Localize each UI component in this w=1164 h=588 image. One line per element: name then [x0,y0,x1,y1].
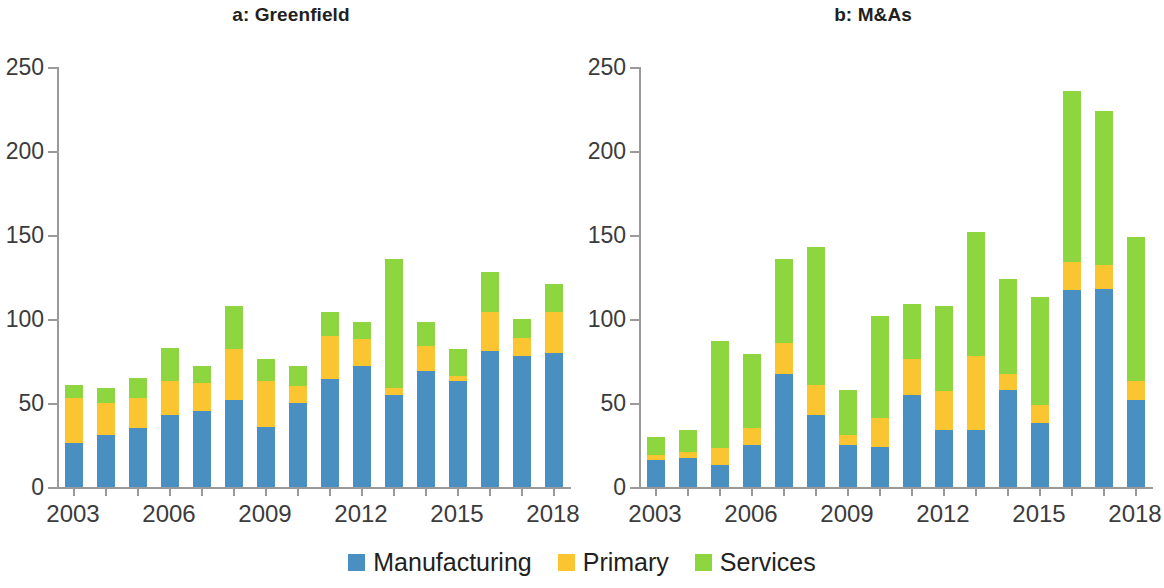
bar-2003[interactable] [65,385,83,487]
bar-2014[interactable] [417,322,435,487]
bar-segment-primary-2013[interactable] [385,388,403,395]
bar-segment-manufacturing-2005[interactable] [711,465,729,487]
bar-2006[interactable] [161,348,179,487]
bar-segment-manufacturing-2003[interactable] [65,443,83,487]
bar-2004[interactable] [679,430,697,487]
bar-segment-services-2004[interactable] [97,388,115,403]
bar-segment-services-2016[interactable] [481,272,499,312]
bar-segment-services-2012[interactable] [935,306,953,392]
bar-segment-manufacturing-2004[interactable] [679,458,697,487]
bar-segment-primary-2016[interactable] [481,312,499,351]
bar-segment-services-2014[interactable] [999,279,1017,375]
bar-segment-manufacturing-2014[interactable] [417,371,435,487]
bar-segment-manufacturing-2014[interactable] [999,390,1017,487]
bar-segment-manufacturing-2009[interactable] [257,427,275,487]
bar-segment-services-2011[interactable] [321,312,339,336]
bar-segment-manufacturing-2011[interactable] [321,379,339,487]
bar-segment-primary-2004[interactable] [679,452,697,459]
legend-item-services[interactable]: Services [695,548,816,577]
bar-segment-primary-2005[interactable] [711,448,729,465]
bar-segment-services-2009[interactable] [257,359,275,381]
bar-segment-services-2010[interactable] [871,316,889,418]
bar-segment-services-2008[interactable] [807,247,825,385]
bar-segment-primary-2018[interactable] [545,312,563,352]
bar-segment-services-2008[interactable] [225,306,243,350]
bar-segment-primary-2003[interactable] [65,398,83,443]
bar-segment-primary-2017[interactable] [1095,265,1113,289]
bar-segment-services-2017[interactable] [513,319,531,337]
bar-segment-manufacturing-2011[interactable] [903,395,921,487]
bar-2011[interactable] [903,304,921,487]
bar-segment-services-2003[interactable] [65,385,83,398]
bar-segment-primary-2006[interactable] [743,428,761,445]
bar-segment-services-2007[interactable] [775,259,793,343]
bar-2012[interactable] [353,322,371,487]
bar-segment-primary-2007[interactable] [775,343,793,375]
bar-segment-services-2013[interactable] [967,232,985,356]
bar-2009[interactable] [839,390,857,487]
bar-segment-manufacturing-2018[interactable] [1127,400,1145,487]
bar-segment-manufacturing-2004[interactable] [97,435,115,487]
bar-segment-primary-2014[interactable] [999,374,1017,389]
bar-segment-manufacturing-2010[interactable] [871,447,889,487]
bar-segment-services-2016[interactable] [1063,91,1081,262]
bar-2018[interactable] [545,284,563,487]
bar-segment-services-2006[interactable] [743,354,761,428]
bar-segment-services-2007[interactable] [193,366,211,383]
bar-2013[interactable] [385,259,403,487]
bar-segment-services-2012[interactable] [353,322,371,339]
bar-segment-manufacturing-2013[interactable] [967,430,985,487]
bar-segment-manufacturing-2017[interactable] [1095,289,1113,487]
bar-segment-services-2018[interactable] [545,284,563,313]
bar-2015[interactable] [449,349,467,487]
bar-segment-manufacturing-2013[interactable] [385,395,403,487]
bar-segment-manufacturing-2010[interactable] [289,403,307,487]
bar-segment-services-2013[interactable] [385,259,403,388]
bar-segment-services-2005[interactable] [711,341,729,449]
bar-segment-manufacturing-2005[interactable] [129,428,147,487]
bar-2003[interactable] [647,437,665,487]
bar-2015[interactable] [1031,297,1049,487]
bar-segment-primary-2010[interactable] [871,418,889,447]
bar-segment-primary-2011[interactable] [321,336,339,380]
bar-segment-primary-2014[interactable] [417,346,435,371]
bar-segment-primary-2007[interactable] [193,383,211,412]
bar-2010[interactable] [289,366,307,487]
bar-segment-manufacturing-2003[interactable] [647,460,665,487]
bar-2008[interactable] [807,247,825,487]
bar-segment-primary-2006[interactable] [161,381,179,415]
bar-segment-manufacturing-2008[interactable] [807,415,825,487]
bar-2009[interactable] [257,359,275,487]
bar-2010[interactable] [871,316,889,487]
bar-2012[interactable] [935,306,953,487]
bar-segment-manufacturing-2007[interactable] [193,411,211,487]
bar-segment-manufacturing-2012[interactable] [935,430,953,487]
bar-segment-primary-2015[interactable] [1031,405,1049,423]
bar-segment-primary-2018[interactable] [1127,381,1145,399]
bar-segment-primary-2011[interactable] [903,359,921,394]
bar-segment-manufacturing-2007[interactable] [775,374,793,487]
bar-segment-manufacturing-2017[interactable] [513,356,531,487]
bar-segment-primary-2004[interactable] [97,403,115,435]
bar-segment-manufacturing-2016[interactable] [481,351,499,487]
bar-segment-primary-2012[interactable] [935,391,953,430]
bar-segment-services-2004[interactable] [679,430,697,452]
bar-2007[interactable] [193,366,211,487]
bar-segment-services-2015[interactable] [449,349,467,376]
bar-2016[interactable] [1063,91,1081,487]
bar-segment-primary-2010[interactable] [289,386,307,403]
bar-segment-manufacturing-2006[interactable] [161,415,179,487]
bar-segment-services-2006[interactable] [161,348,179,382]
bar-segment-manufacturing-2012[interactable] [353,366,371,487]
bar-2018[interactable] [1127,237,1145,487]
bar-segment-services-2010[interactable] [289,366,307,386]
bar-segment-manufacturing-2008[interactable] [225,400,243,487]
bar-2006[interactable] [743,354,761,487]
bar-2007[interactable] [775,259,793,487]
bar-2013[interactable] [967,232,985,487]
bar-2016[interactable] [481,272,499,487]
bar-segment-services-2017[interactable] [1095,111,1113,266]
bar-2017[interactable] [513,319,531,487]
bar-segment-services-2015[interactable] [1031,297,1049,405]
bar-2014[interactable] [999,279,1017,487]
